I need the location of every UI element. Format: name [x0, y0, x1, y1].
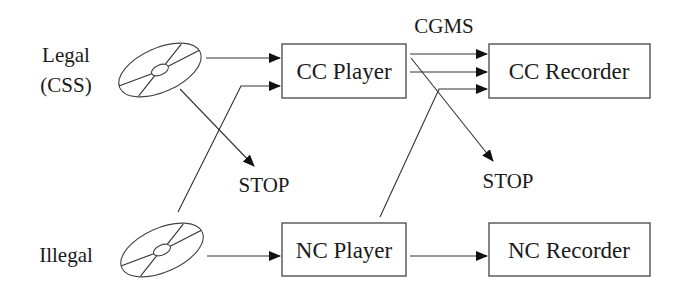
source-label-legal-css: (CSS) — [40, 73, 91, 97]
diagram-canvas: Legal (CSS) Illegal CC Player CC Recorde… — [0, 0, 682, 291]
disc-icon — [113, 212, 211, 288]
node-cc-recorder: CC Recorder — [489, 44, 650, 98]
node-cc-player: CC Player — [282, 44, 406, 98]
edge-nc-player-to-cc-recorder — [380, 89, 487, 217]
node-label: CC Recorder — [509, 59, 630, 84]
node-label: CC Player — [296, 59, 392, 84]
cgms-label: CGMS — [414, 14, 474, 38]
source-label-illegal: Illegal — [39, 243, 93, 267]
node-label: NC Recorder — [508, 238, 630, 263]
node-label: NC Player — [296, 238, 393, 263]
node-nc-recorder: NC Recorder — [489, 223, 650, 276]
stop-label-1: STOP — [239, 173, 290, 197]
node-nc-player: NC Player — [282, 223, 406, 276]
edge-cc-player-to-stop — [411, 58, 493, 161]
source-label-legal: Legal — [42, 43, 90, 67]
edge-legal-to-stop — [180, 89, 254, 166]
stop-label-2: STOP — [483, 169, 534, 193]
disc-icon — [111, 32, 209, 108]
